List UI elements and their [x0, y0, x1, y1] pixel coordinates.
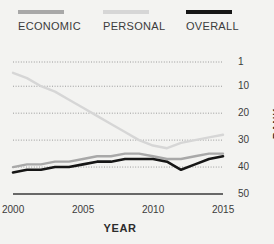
x-tick-label: 2015 — [212, 204, 234, 215]
y-tick-label: 1 — [238, 57, 244, 67]
legend-label-economic: ECONOMIC — [18, 20, 64, 33]
y-tick-label: 10 — [238, 81, 249, 91]
y-tick-label: 30 — [238, 135, 249, 145]
legend-item-overall[interactable]: OVERALL — [186, 10, 232, 33]
y-tick-label: 20 — [238, 108, 249, 118]
legend-label-personal: PERSONAL — [103, 20, 149, 33]
y-tick-label: 50 — [238, 189, 249, 199]
legend-swatch-overall — [186, 10, 232, 14]
x-tick-label: 2005 — [72, 204, 94, 215]
x-tick-label: 2000 — [2, 204, 24, 215]
y-tick-label: 40 — [238, 162, 249, 172]
chart-container: ECONOMIC PERSONAL OVERALL 11020304050 RA… — [0, 0, 274, 244]
legend-item-personal[interactable]: PERSONAL — [103, 10, 149, 33]
chart-svg — [0, 52, 274, 202]
legend-swatch-personal — [103, 10, 149, 14]
legend-label-overall: OVERALL — [186, 20, 232, 33]
y-axis-title: RANK — [272, 108, 274, 139]
x-axis-title: YEAR — [0, 222, 240, 234]
chart-legend: ECONOMIC PERSONAL OVERALL — [0, 10, 274, 40]
legend-swatch-economic — [18, 10, 64, 14]
plot-area — [0, 52, 274, 202]
legend-item-economic[interactable]: ECONOMIC — [18, 10, 64, 33]
x-tick-label: 2010 — [142, 204, 164, 215]
series-line-personal[interactable] — [13, 73, 223, 148]
